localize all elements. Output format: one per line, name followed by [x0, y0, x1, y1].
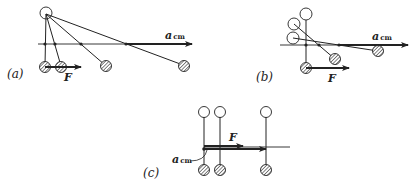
force-label: F — [63, 71, 73, 84]
string — [46, 14, 183, 65]
cm-dot — [304, 43, 307, 46]
string — [46, 14, 61, 66]
open-circle — [261, 107, 272, 118]
string — [46, 14, 105, 65]
panel-a: F acm (a) — [7, 7, 192, 84]
acm-label: acm — [165, 29, 185, 42]
cm-dot — [43, 42, 46, 45]
cm-dot — [337, 43, 340, 46]
acm-label: acm — [172, 153, 192, 166]
panel-c: F acm (c) — [143, 107, 290, 181]
cm-dot — [79, 42, 82, 45]
diagram-canvas: F acm (a) F acm (b) — [0, 0, 410, 188]
panel-label: (b) — [256, 70, 273, 84]
hatched-bob — [330, 54, 341, 65]
force-label: F — [327, 72, 337, 85]
hatched-bob — [261, 165, 272, 176]
cm-dot — [202, 147, 206, 151]
string — [45, 14, 46, 66]
cm-dot — [124, 42, 127, 45]
hatched-bob — [215, 165, 226, 176]
panel-label: (a) — [7, 67, 24, 81]
hatched-bob — [373, 46, 384, 57]
panel-label: (c) — [143, 166, 159, 180]
open-circle — [199, 107, 210, 118]
acm-label: acm — [372, 30, 392, 43]
panel-b: F acm (b) — [256, 8, 408, 85]
hatched-bob — [101, 61, 112, 72]
cm-dot — [317, 43, 320, 46]
open-circle — [215, 107, 226, 118]
open-circle — [300, 8, 312, 20]
hatched-bob — [199, 165, 210, 176]
hatched-bob — [179, 61, 190, 72]
force-label: F — [228, 131, 238, 144]
cm-dot — [53, 42, 56, 45]
